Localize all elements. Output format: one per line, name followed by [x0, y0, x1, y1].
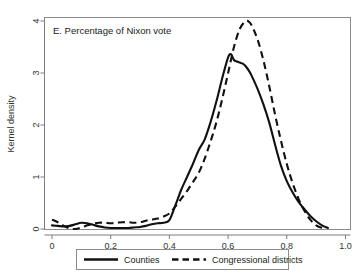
x-axis: 00.20.40.60.81.0 [45, 235, 352, 251]
panel-title: E. Percentage of Nixon vote [53, 25, 171, 36]
x-tick-label: 1.0 [339, 241, 352, 251]
x-tick-label: 0 [49, 241, 54, 251]
series-line-counties [52, 54, 328, 228]
y-tick-label: 0 [31, 226, 41, 231]
y-tick-label: 4 [31, 18, 41, 23]
legend-label-counties: Counties [124, 255, 160, 265]
legend-label-congressional-districts: Congressional districts [212, 255, 303, 265]
y-axis-title: Kernel density [6, 95, 16, 153]
kernel-density-figure: 01234 00.20.40.60.81.0 Kernel density E.… [0, 0, 364, 277]
y-axis: 01234 [31, 18, 45, 231]
y-tick-label: 2 [31, 122, 41, 127]
y-tick-label: 1 [31, 174, 41, 179]
plot-frame [45, 18, 351, 230]
y-tick-label: 3 [31, 70, 41, 75]
series-line-congressional-districts [52, 20, 322, 229]
chart-svg: 01234 00.20.40.60.81.0 Kernel density E.… [0, 0, 364, 277]
legend: Counties Congressional districts [77, 250, 304, 270]
